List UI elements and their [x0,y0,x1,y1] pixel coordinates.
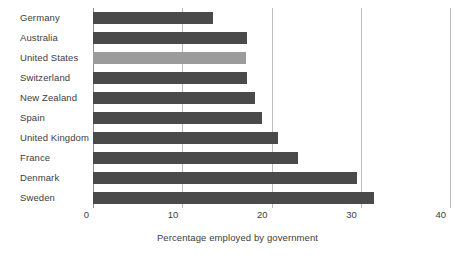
bar-row [93,108,450,128]
category-label: France [20,148,90,168]
category-label: Australia [20,28,90,48]
category-label: Denmark [20,168,90,188]
category-label: Switzerland [20,68,90,88]
x-axis-title: Percentage employed by government [0,232,475,243]
bar[interactable] [93,192,374,204]
x-axis-tick-labels: 010203040 [93,209,450,225]
bar-row [93,28,450,48]
bar[interactable] [93,112,262,124]
category-label: New Zealand [20,88,90,108]
bar-row [93,168,450,188]
bar[interactable] [93,52,246,64]
bar[interactable] [93,92,255,104]
plot-area [93,8,450,208]
bar[interactable] [93,172,357,184]
bar[interactable] [93,132,278,144]
bar[interactable] [93,152,298,164]
bar-row [93,68,450,88]
category-axis-labels: GermanyAustraliaUnited StatesSwitzerland… [20,8,90,208]
category-label: Germany [20,8,90,28]
bar-chart: GermanyAustraliaUnited StatesSwitzerland… [0,0,475,266]
bar-row [93,188,450,208]
x-tick-label: 20 [257,209,272,220]
bar[interactable] [93,72,247,84]
x-tick-label: 30 [346,209,361,220]
bar-row [93,128,450,148]
bar-row [93,8,450,28]
category-label: Sweden [20,188,90,208]
bar-row [93,48,450,68]
x-tick-label: 10 [168,209,183,220]
x-tick-label: 0 [84,209,93,220]
category-label: Spain [20,108,90,128]
category-label: United States [20,48,90,68]
category-label: United Kingdom [20,128,90,148]
bar[interactable] [93,32,247,44]
bar[interactable] [93,12,213,24]
x-tick-label: 40 [435,209,450,220]
bar-row [93,88,450,108]
gridline [450,8,451,208]
bar-row [93,148,450,168]
